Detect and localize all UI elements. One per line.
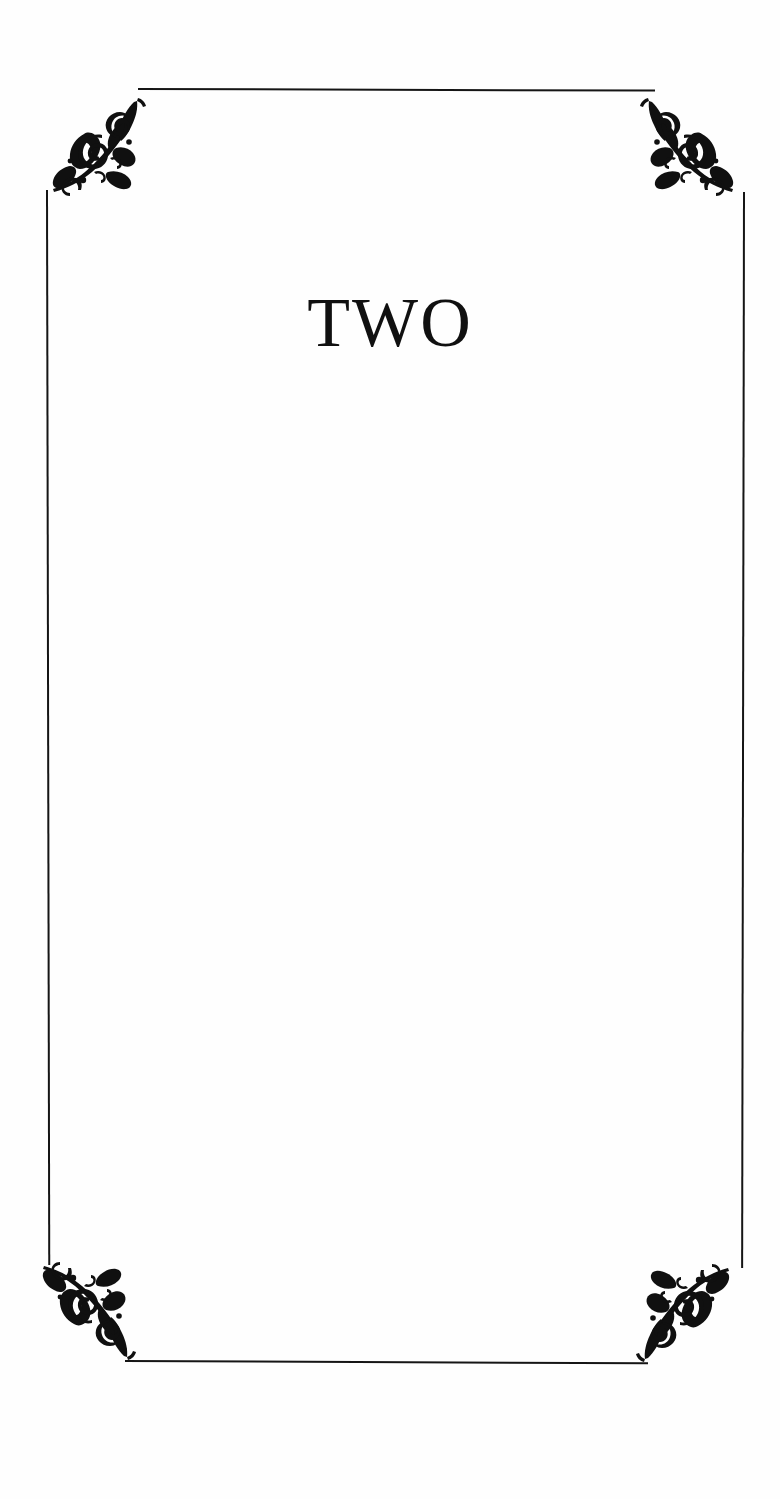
corner-ornament-bottom-right-icon	[628, 1264, 732, 1368]
page-body-text	[60, 400, 720, 1250]
corner-ornament-top-left-icon	[50, 92, 154, 196]
corner-ornament-top-right-icon	[632, 92, 736, 196]
book-page: TWO	[0, 0, 780, 1499]
frame-bottom-rule	[125, 1360, 648, 1364]
corner-ornament-bottom-left-icon	[40, 1262, 144, 1366]
frame-top-rule	[138, 88, 655, 92]
chapter-title: TWO	[0, 288, 780, 358]
